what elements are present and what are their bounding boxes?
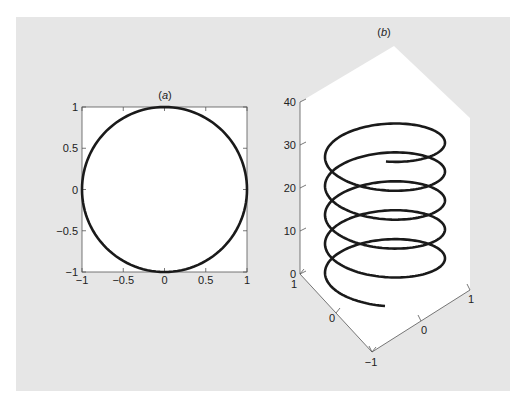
y-tick-label: 0.5	[63, 142, 78, 154]
subplot-b: (b) 010203040−10101	[284, 26, 474, 368]
x-tick-label: 1	[244, 274, 250, 286]
subplot-a-title: (a)	[158, 89, 171, 101]
z-tick-label: 30	[284, 139, 296, 151]
y-tick-label: 1	[291, 278, 297, 290]
subplot-b-title: (b)	[377, 26, 390, 38]
axis-tick-label: −1	[365, 356, 378, 368]
figure-canvas: (a) −1−0.500.51−1−0.500.51 (b) 010203040…	[0, 0, 530, 404]
y-tick-label: 0	[329, 312, 335, 324]
x-tick-label: 0	[421, 324, 427, 336]
x-tick-label: 1	[468, 293, 474, 305]
y-tick-label: −1	[65, 266, 78, 278]
z-tick-label: 40	[284, 96, 296, 108]
y-tick-label: 0	[72, 184, 78, 196]
x-tick-label: 0	[161, 274, 167, 286]
x-tick-label: 0.5	[198, 274, 213, 286]
z-tick-label: 10	[284, 225, 296, 237]
y-tick-label: −0.5	[56, 225, 78, 237]
y-tick-label: 1	[72, 101, 78, 113]
subplot-a: (a) −1−0.500.51−1−0.500.51	[56, 89, 250, 286]
z-tick-label: 20	[284, 182, 296, 194]
x-tick-label: −0.5	[112, 274, 134, 286]
